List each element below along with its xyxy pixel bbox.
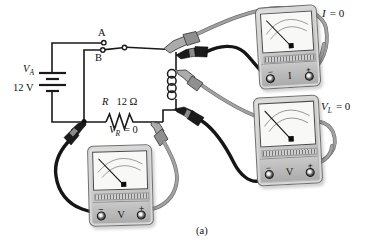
inductor-voltmeter-terminal-strip: − V + — [259, 155, 319, 182]
ammeter-reading-label: I= 0 — [322, 7, 344, 19]
wire-top — [52, 43, 101, 72]
vl-plus-screw — [306, 167, 315, 176]
wire-bottom-left — [52, 91, 106, 122]
inductor-voltmeter-face — [259, 101, 316, 147]
contact-b-text: B — [95, 52, 102, 63]
vl-plus-label: + — [307, 160, 312, 167]
source-label: VA — [23, 63, 34, 74]
resistor-reading-label: VR= 0 — [109, 124, 138, 135]
inductor-icon — [168, 69, 177, 99]
wire-switch-to-corner — [127, 47, 165, 49]
vl-minus-screw — [264, 170, 273, 179]
vr-plus-probe-icon — [151, 122, 168, 147]
resistor-voltmeter-terminal-strip: − V + — [92, 200, 151, 224]
vl-plus-probe-icon — [177, 70, 204, 91]
vr-minus-screw — [96, 211, 105, 220]
figure-caption: (a) — [196, 225, 208, 236]
vr-plus-screw — [137, 210, 146, 219]
figure-rl-circuit: − I + − V — [0, 0, 368, 242]
ammeter-face — [260, 10, 314, 53]
switch-label-b: B — [95, 52, 102, 63]
source-value-text: 12 V — [13, 82, 34, 93]
vl-unit-label: V — [286, 166, 294, 177]
switch-arm — [105, 48, 122, 50]
ammeter: − I + — [255, 4, 322, 90]
vr-reading-eq: = 0 — [124, 124, 138, 135]
resistor-voltmeter-face — [93, 150, 148, 191]
meter-scale-icon — [94, 151, 147, 190]
resistor-symbol: R — [102, 96, 108, 107]
vl-minus-probe-icon — [175, 107, 205, 126]
ammeter-unit-label: I — [288, 70, 292, 81]
vr-minus-probe-icon — [64, 122, 86, 146]
meter-scale-icon — [261, 11, 313, 52]
resistor-value-text: 12 Ω — [116, 96, 137, 107]
vl-reading-label: VL= 0 — [321, 100, 350, 112]
ammeter-minus-probe-icon — [176, 47, 208, 60]
resistor-voltmeter: − V + — [87, 144, 154, 227]
vr-unit-label: V — [117, 208, 125, 219]
circuit-wires — [52, 43, 176, 129]
switch-icon — [101, 41, 127, 53]
inductor-voltmeter: − V + — [253, 94, 324, 186]
switch-contact-a — [102, 41, 106, 45]
source-subscript: A — [29, 68, 34, 77]
caption-text: (a) — [196, 225, 208, 236]
ammeter-terminal-strip: − I + — [261, 61, 317, 87]
ammeter-reading-symbol: I — [322, 7, 326, 19]
contact-a-text: A — [98, 27, 106, 38]
vl-reading-eq: = 0 — [336, 100, 350, 112]
vr-reading-subscript: R — [115, 129, 120, 138]
vl-reading-symbol: V — [321, 100, 328, 112]
resistor-label: R12 Ω — [102, 96, 137, 107]
switch-label-a: A — [98, 27, 106, 38]
ammeter-reading-eq: = 0 — [330, 7, 344, 19]
battery-icon — [39, 73, 66, 91]
switch-pivot — [122, 45, 126, 49]
meter-scale-icon — [260, 102, 315, 146]
wire-bottom-right — [163, 99, 176, 122]
vl-reading-subscript: L — [328, 106, 332, 115]
ammeter-plus-screw — [304, 71, 314, 81]
vl-minus-label: − — [266, 163, 271, 170]
source-value-label: 12 V — [13, 82, 34, 93]
ammeter-minus-screw — [266, 74, 276, 84]
